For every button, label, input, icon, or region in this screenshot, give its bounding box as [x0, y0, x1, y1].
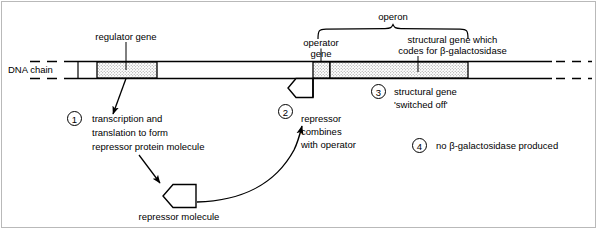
- step-1-text-line1: transcription and: [92, 113, 162, 125]
- repressor-molecule-label: repressor molecule: [119, 211, 239, 223]
- step-1-text-line3: repressor protein molecule: [92, 141, 204, 153]
- operon-label: operon: [358, 11, 428, 23]
- regulator-gene-label: regulator gene: [71, 31, 181, 43]
- structural-gene-label-line1: structural gene which: [365, 34, 540, 46]
- bound-repressor-shape: [288, 79, 313, 98]
- operon-diagram: DNA chain regulator gene operator gene o…: [0, 0, 597, 229]
- operator-gene-block: [313, 62, 330, 78]
- step-3-number: 3: [371, 84, 386, 99]
- regulator-gene-block: [97, 62, 157, 78]
- structural-gene-label-line2: codes for β-galactosidase: [365, 45, 540, 57]
- step-3-text-line2: 'switched off': [394, 99, 448, 111]
- step-2-number: 2: [278, 104, 293, 119]
- step-2-text-line1: repressor: [301, 113, 341, 125]
- operator-gene-label-line1: operator: [286, 37, 356, 49]
- step-1-text-line2: translation to form: [92, 127, 168, 139]
- step-4-text-line1: no β-galactosidase produced: [436, 140, 558, 152]
- step-2-text-line2: combines: [301, 126, 342, 138]
- repressor-molecule-shape: [163, 185, 196, 208]
- step-3-text-line1: structural gene: [394, 86, 457, 98]
- dna-chain-label: DNA chain: [8, 64, 53, 76]
- arrow-step1-to-repressor: [139, 155, 160, 183]
- step-4-number: 4: [412, 138, 427, 153]
- structural-gene-block: [330, 62, 468, 78]
- step-1-number: 1: [67, 111, 82, 126]
- step-2-text-line3: with operator: [301, 139, 356, 151]
- arrow-repressor-to-operator: [197, 126, 302, 202]
- operator-gene-label-line2: gene: [286, 48, 356, 60]
- arrow-regulator-to-step1: [113, 79, 126, 115]
